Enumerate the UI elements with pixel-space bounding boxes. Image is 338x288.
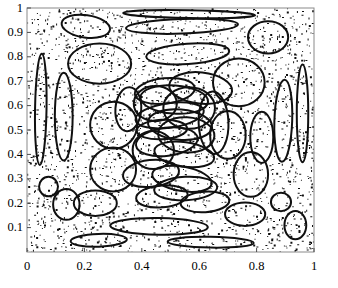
x-tick-label-0.8: 0.8 [237,260,277,273]
y-tick-label-0.2: 0.2 [7,197,23,210]
y-tick-label-1: 1 [17,2,23,15]
x-tick-label-1: 1 [294,260,334,273]
y-tick-label-0.1: 0.1 [7,221,23,234]
y-tick-label-0.9: 0.9 [7,26,23,39]
x-tick-label-0: 0 [7,260,47,273]
x-tick-label-0.4: 0.4 [122,260,162,273]
scatter-plot-figure: 0.10.20.30.40.50.60.70.80.91 00.20.40.60… [0,0,338,288]
plot-canvas [0,0,338,288]
x-tick-label-0.6: 0.6 [179,260,219,273]
y-tick-label-0.7: 0.7 [7,75,23,88]
y-tick-label-0.8: 0.8 [7,50,23,63]
y-tick-label-0.3: 0.3 [7,172,23,185]
y-tick-label-0.6: 0.6 [7,99,23,112]
y-tick-label-0.5: 0.5 [7,124,23,137]
x-tick-label-0.2: 0.2 [64,260,104,273]
y-tick-label-0.4: 0.4 [7,148,23,161]
